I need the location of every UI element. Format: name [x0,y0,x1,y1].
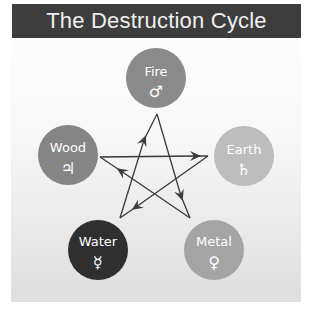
node-earth: Earth ♄ [214,126,274,186]
arrow-water-to-fire [120,114,157,218]
arrow-earth-to-water [120,156,208,218]
node-wood-label: Wood [50,140,86,155]
saturn-icon: ♄ [237,160,251,179]
arrow-metal-to-wood [100,157,190,218]
node-fire: Fire ♂ [126,48,186,108]
jupiter-icon: ♃ [61,159,75,178]
node-water: Water ☿ [68,220,128,280]
destruction-cycle-diagram: Fire ♂ Earth ♄ Metal ♀ Water ☿ Wood ♃ [0,0,309,313]
node-metal-label: Metal [196,234,232,249]
mars-icon: ♂ [149,82,163,101]
arrow-fire-to-metal [157,114,190,218]
arrow-wood-to-earth [100,156,208,157]
node-fire-label: Fire [144,64,167,79]
venus-icon: ♀ [208,253,220,272]
pentagram-star [100,114,208,218]
node-earth-label: Earth [227,142,262,157]
node-metal: Metal ♀ [184,220,244,280]
node-wood: Wood ♃ [38,125,98,185]
mercury-icon: ☿ [93,253,103,272]
node-water-label: Water [79,234,118,249]
